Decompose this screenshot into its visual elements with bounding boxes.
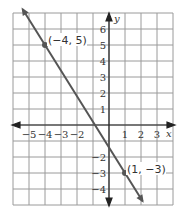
x-axis-label: x	[166, 128, 172, 139]
y-tick-label: 2	[100, 88, 106, 99]
x-tick-label: 1	[122, 129, 128, 140]
y-tick-label: 4	[100, 56, 106, 67]
x-tick-label: −2	[70, 129, 85, 140]
y-tick-label: 3	[100, 72, 106, 83]
coordinate-plane: −5−4−3−2123654321−2−3−4 x y (−4, 5) (1, …	[0, 0, 181, 215]
point-a-label: (−4, 5)	[48, 34, 87, 47]
y-tick-label: 5	[100, 40, 106, 51]
x-tick-label: −5	[22, 129, 37, 140]
y-tick-label: −3	[91, 168, 106, 179]
x-tick-label: 3	[154, 129, 160, 140]
x-tick-label: −4	[38, 129, 53, 140]
y-tick-label: −4	[91, 184, 106, 195]
y-axis-label: y	[113, 13, 120, 24]
y-axis-up-arrow-icon	[106, 13, 112, 21]
point-b-label: (1, −3)	[127, 163, 166, 176]
x-tick-label: 2	[138, 129, 144, 140]
x-tick-label: −3	[54, 129, 69, 140]
y-tick-label: 6	[100, 24, 106, 35]
y-tick-label: −2	[91, 152, 106, 163]
y-tick-label: 1	[100, 104, 106, 115]
